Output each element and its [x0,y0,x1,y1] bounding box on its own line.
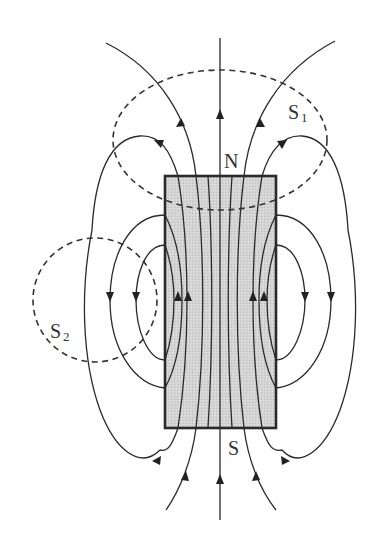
south-pole-label: S [228,437,239,459]
bottom-field-lines [160,428,282,510]
arrow-up-icon [216,109,224,119]
arrow-up-icon [252,471,260,481]
arrow-down-icon [132,292,140,302]
magnet-field-diagram: N S S 1 S 2 [0,0,378,534]
arrow-up-icon [281,456,290,465]
right-side-loops [276,215,356,458]
left-side-loops [84,215,165,458]
surface-s2-label: S [50,320,61,342]
surface-s1-label: S [288,101,299,123]
surface-s1-subscript: 1 [301,110,308,125]
arrow-down-icon [301,292,309,302]
arrow-down-icon [327,292,335,302]
arrow-left-icon [154,140,164,148]
north-pole-label: N [224,150,238,172]
surface-s2-subscript: 2 [63,329,70,344]
surface-s2 [33,238,157,362]
arrow-up-icon [176,118,185,127]
arrow-up-icon [152,456,161,465]
arrow-down-icon [106,292,114,302]
arrow-up-icon [216,474,224,484]
